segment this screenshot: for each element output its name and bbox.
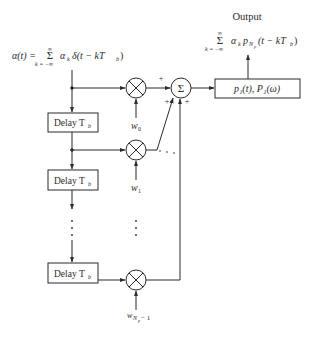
delay-label-2-text: Delay T bbox=[54, 176, 85, 186]
vertical-ellipsis-delay bbox=[71, 220, 73, 236]
output-close: ) bbox=[294, 35, 297, 47]
delay-label-1-sub: b bbox=[88, 123, 91, 129]
sum-sign-right: + bbox=[185, 97, 190, 106]
input-expression: α(t) = ∞ Σ k = −∞ α k δ(t − kT b ) bbox=[12, 46, 123, 67]
output-alpha-sub: k bbox=[238, 41, 241, 47]
delay-label-2-sub: b bbox=[88, 181, 91, 187]
input-alpha-sub: k bbox=[67, 56, 70, 62]
horizontal-ellipsis bbox=[159, 150, 175, 154]
input-alpha: α bbox=[60, 50, 66, 61]
output-arg: (t − kT bbox=[258, 35, 287, 47]
output-p-subsub: p bbox=[253, 44, 257, 49]
vertical-ellipsis-mult bbox=[135, 220, 137, 236]
sum-sign-top: + bbox=[159, 74, 164, 83]
multn-to-sum-line bbox=[146, 99, 180, 280]
delay-label-1: Delay T b bbox=[54, 118, 91, 129]
input-sum-symbol: Σ bbox=[47, 49, 53, 61]
output-title: Output bbox=[232, 11, 261, 22]
multiplier-1 bbox=[126, 140, 146, 160]
delay-label-1-text: Delay T bbox=[54, 118, 85, 128]
delay-label-3-sub: b bbox=[88, 274, 91, 280]
output-expression: ∞ Σ k = −∞ α k p N p (t − kT b ) bbox=[205, 30, 297, 52]
input-lhs: α(t) = bbox=[12, 50, 36, 62]
output-p: p bbox=[242, 35, 248, 46]
weight-1-text: w bbox=[131, 182, 138, 193]
weight-1-sub: 1 bbox=[138, 188, 141, 194]
input-delta-sub: b bbox=[116, 56, 119, 62]
weight-n-label: w N p − 1 bbox=[127, 311, 151, 323]
weight-0-text: w bbox=[131, 120, 138, 131]
weight-n-suffix: − 1 bbox=[141, 314, 151, 322]
output-sum-symbol: Σ bbox=[217, 34, 223, 46]
output-alpha: α bbox=[231, 35, 237, 46]
weight-0-label: w 0 bbox=[131, 120, 141, 132]
input-sum-lower: k = −∞ bbox=[35, 61, 54, 67]
output-sum-lower: k = −∞ bbox=[205, 46, 224, 52]
sum-sign-left: + bbox=[165, 97, 170, 106]
tapped-delay-line-diagram: Output ∞ Σ k = −∞ α k p N p (t − kT b ) … bbox=[0, 0, 310, 340]
delay-label-3-text: Delay T bbox=[54, 269, 85, 279]
delay-label-2: Delay T b bbox=[54, 176, 91, 187]
weight-1-label: w 1 bbox=[131, 182, 141, 194]
filter-box-label: p₁(t), P₁(ω) bbox=[233, 83, 281, 95]
weight-0-sub: 0 bbox=[138, 126, 141, 132]
output-arg-sub: b bbox=[290, 41, 293, 47]
multiplier-n bbox=[126, 270, 146, 290]
delay-label-3: Delay T b bbox=[54, 269, 91, 280]
input-close: ) bbox=[120, 50, 123, 62]
input-delta: δ(t − kT bbox=[72, 50, 106, 62]
multiplier-0 bbox=[126, 78, 146, 98]
sum-symbol: Σ bbox=[178, 82, 184, 94]
